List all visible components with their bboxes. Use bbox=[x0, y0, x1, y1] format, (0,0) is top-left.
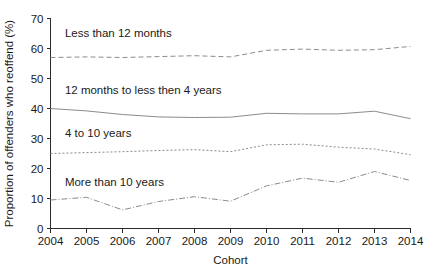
x-tick-label: 2010 bbox=[254, 235, 280, 247]
x-tick-label: 2009 bbox=[218, 235, 244, 247]
series-line-0 bbox=[51, 46, 411, 57]
y-axis-title: Proportion of offenders who reoffend (%) bbox=[3, 20, 15, 228]
series-inline-labels: Less than 12 months12 months to less the… bbox=[65, 27, 222, 188]
y-tick-label: 0 bbox=[37, 223, 43, 235]
series-label-0: Less than 12 months bbox=[65, 27, 172, 39]
y-axis-ticks: 010203040506070 bbox=[31, 13, 51, 235]
series-label-1: 12 months to less then 4 years bbox=[65, 84, 222, 96]
x-tick-label: 2012 bbox=[326, 235, 352, 247]
series-label-2: 4 to 10 years bbox=[65, 127, 132, 139]
x-axis-ticks: 2004200520062007200820092010201120122013… bbox=[38, 229, 424, 247]
x-axis: 2004200520062007200820092010201120122013… bbox=[38, 229, 424, 266]
x-tick-label: 2014 bbox=[398, 235, 424, 247]
x-tick-label: 2011 bbox=[290, 235, 315, 247]
series-line-2 bbox=[51, 144, 411, 155]
y-tick-label: 70 bbox=[31, 13, 44, 25]
y-axis: 010203040506070 Proportion of offenders … bbox=[3, 13, 51, 235]
x-tick-label: 2004 bbox=[38, 235, 64, 247]
y-tick-label: 40 bbox=[31, 103, 44, 115]
series-label-3: More than 10 years bbox=[65, 176, 164, 188]
x-tick-label: 2013 bbox=[362, 235, 388, 247]
y-tick-label: 10 bbox=[31, 193, 44, 205]
x-tick-label: 2008 bbox=[182, 235, 208, 247]
series-line-1 bbox=[51, 109, 411, 119]
y-tick-label: 60 bbox=[31, 43, 44, 55]
x-tick-label: 2005 bbox=[74, 235, 100, 247]
chart-canvas: 010203040506070 Proportion of offenders … bbox=[0, 0, 427, 272]
y-tick-label: 20 bbox=[31, 163, 44, 175]
x-tick-label: 2006 bbox=[110, 235, 136, 247]
y-tick-label: 50 bbox=[31, 73, 44, 85]
y-tick-label: 30 bbox=[31, 133, 44, 145]
x-tick-label: 2007 bbox=[146, 235, 172, 247]
x-axis-title: Cohort bbox=[213, 254, 248, 266]
reoffending-line-chart: 010203040506070 Proportion of offenders … bbox=[0, 0, 427, 272]
